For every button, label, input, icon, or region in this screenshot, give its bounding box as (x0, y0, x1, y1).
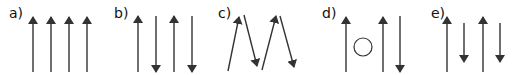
panel-b (138, 16, 192, 72)
vacancy-circle-icon (354, 38, 372, 56)
down-arrow-icon (244, 15, 257, 66)
up-arrow-icon (228, 17, 239, 71)
panel-c (228, 15, 294, 71)
up-arrow-icon (262, 16, 276, 70)
arrows-canvas (0, 0, 521, 75)
panel-e (447, 17, 500, 72)
panel-d (346, 16, 400, 72)
panel-a (33, 17, 87, 72)
down-arrow-icon (280, 16, 294, 67)
